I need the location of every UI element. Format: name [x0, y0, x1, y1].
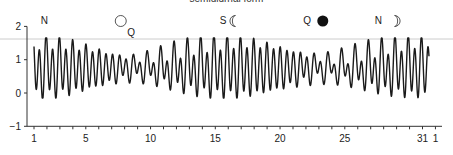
- y-tick-label: 1: [15, 54, 21, 65]
- x-tick-label: 5: [83, 133, 89, 144]
- y-axis: −1012: [10, 21, 27, 132]
- x-tick-label: 20: [274, 133, 286, 144]
- phase-label: S: [220, 15, 227, 26]
- x-tick-label: 1: [31, 133, 37, 144]
- new-moon-icon: [317, 16, 328, 27]
- moon-phase-annotations: NQSQN: [41, 15, 400, 38]
- x-tick-label: 15: [210, 133, 222, 144]
- full-moon-icon: [115, 16, 126, 27]
- x-tick-label: 31: [417, 133, 429, 144]
- phase-label: Q: [303, 15, 311, 26]
- tide-chart: semidiurnal form −1012 1510152025311 NQS…: [0, 0, 453, 155]
- tide-line: [34, 38, 429, 98]
- phase-label: Q: [127, 27, 135, 38]
- phase-label: N: [41, 15, 48, 26]
- y-tick-label: 0: [15, 88, 21, 99]
- last-quarter-moon-icon: [395, 16, 401, 27]
- y-tick-label: 2: [15, 21, 21, 32]
- phase-label: N: [375, 15, 382, 26]
- first-quarter-moon-icon: [230, 16, 236, 27]
- chart-title: semidiurnal form: [0, 0, 453, 4]
- y-tick-label: −1: [10, 121, 22, 132]
- x-tick-label: 25: [339, 133, 351, 144]
- tide-series: [34, 38, 429, 98]
- chart-canvas: −1012 1510152025311 NQSQN: [0, 0, 453, 155]
- x-tick-label: 1: [433, 133, 439, 144]
- x-axis: 1510152025311: [27, 126, 442, 144]
- x-tick-label: 10: [145, 133, 157, 144]
